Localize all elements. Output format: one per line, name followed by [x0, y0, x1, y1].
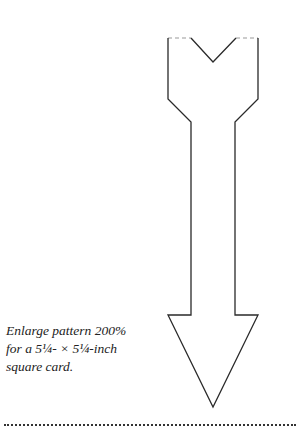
instruction-caption: Enlarge pattern 200% for a 5¼- × 5¼-inch… [6, 322, 166, 376]
dotted-divider [4, 424, 296, 426]
caption-line: square card. [6, 358, 166, 376]
caption-line: for a 5¼- × 5¼-inch [6, 340, 166, 358]
arrow-outline [191, 38, 236, 62]
arrow-body-outline [168, 38, 258, 407]
caption-line: Enlarge pattern 200% [6, 322, 166, 340]
